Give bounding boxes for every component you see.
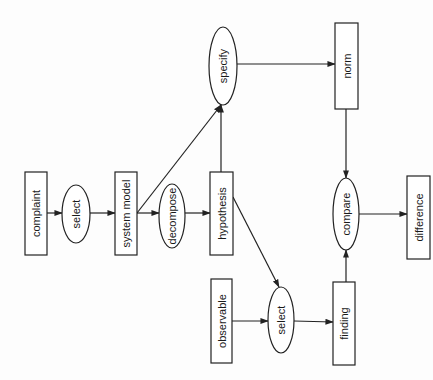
node-label: specify	[217, 48, 229, 83]
node-complaint: complaint	[25, 172, 47, 255]
node-label: complaint	[30, 190, 42, 237]
edge-hypothesis-to-select2	[233, 197, 279, 287]
node-select1: select	[62, 185, 90, 243]
node-select2: select	[268, 287, 294, 353]
diagram-canvas: complaintselectsystem modeldecomposehypo…	[0, 0, 433, 380]
node-label: finding	[338, 307, 350, 339]
node-compare: compare	[333, 178, 359, 250]
node-label: norm	[341, 53, 353, 78]
node-label: system model	[120, 180, 132, 248]
node-label: select	[275, 306, 287, 335]
node-decompose: decompose	[159, 184, 185, 248]
flow-diagram: complaintselectsystem modeldecomposehypo…	[0, 0, 433, 380]
node-hypothesis: hypothesis	[210, 172, 233, 255]
node-observable: observable	[211, 279, 232, 363]
node-label: observable	[216, 294, 228, 348]
node-label: hypothesis	[216, 187, 228, 240]
node-finding: finding	[333, 282, 355, 365]
node-specify: specify	[209, 27, 237, 105]
node-label: decompose	[166, 188, 178, 245]
node-label: difference	[413, 193, 425, 241]
nodes: complaintselectsystem modeldecomposehypo…	[25, 23, 430, 365]
node-norm: norm	[335, 23, 358, 109]
edge-select2-to-finding	[294, 321, 333, 322]
node-difference: difference	[407, 176, 430, 259]
node-label: select	[70, 200, 82, 229]
node-system_model: system model	[115, 172, 137, 255]
node-label: compare	[340, 193, 352, 236]
